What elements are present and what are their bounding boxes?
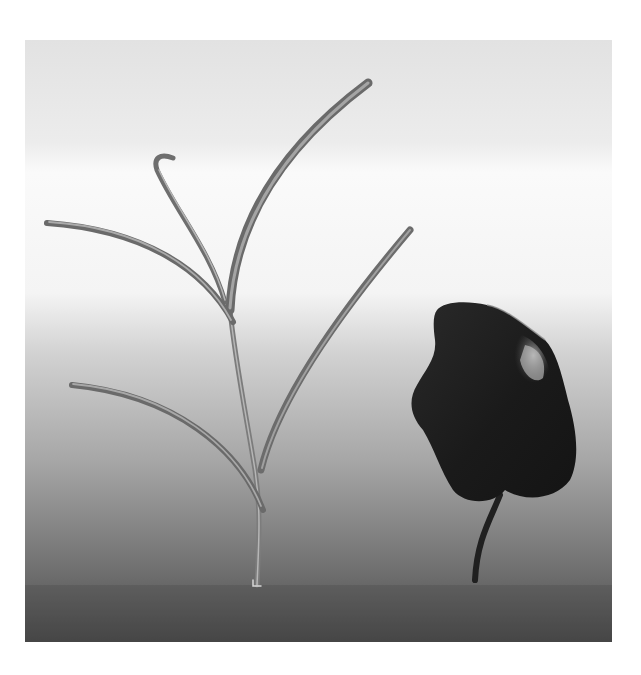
photo (25, 40, 612, 642)
page (0, 0, 641, 675)
ground-band (25, 585, 612, 642)
plant-photo-illustration (25, 40, 612, 642)
